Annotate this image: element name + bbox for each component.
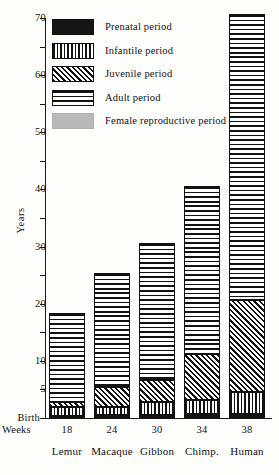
legend-label-prenatal: Prenatal period [105, 21, 172, 33]
legend-swatch-prenatal [52, 19, 94, 35]
y-axis-tick [40, 47, 45, 48]
y-axis-tick-label: 30 [35, 242, 46, 252]
birth-axis-label: Birth [2, 412, 40, 423]
legend-item-infantile: Infantile period [52, 42, 227, 62]
legend-swatch-female [52, 113, 94, 129]
y-axis-tick [40, 161, 45, 162]
bar-segment-infantile [184, 400, 220, 414]
legend-swatch-infantile [52, 43, 94, 59]
bar-segment-juvenile [94, 387, 130, 407]
legend-swatch-juvenile [52, 66, 94, 82]
y-axis-tick-label: 40 [35, 184, 46, 194]
y-axis-tick-label: 50 [35, 127, 46, 137]
bar-segment-adult [184, 186, 220, 355]
bar-segment-prenatal [184, 414, 220, 418]
bar-segment-adult [139, 243, 175, 380]
legend-item-juvenile: Juvenile period [52, 65, 227, 85]
y-axis-title: Years [15, 191, 26, 251]
y-axis-tick-label: 60 [35, 70, 46, 80]
bar-segment-infantile [139, 402, 175, 415]
bar-segment-prenatal [49, 416, 85, 418]
bar-segment-prenatal [229, 414, 265, 418]
gestation-weeks-label: 38 [215, 424, 279, 435]
bar-segment-adult [94, 273, 130, 387]
y-axis-tick [40, 332, 45, 333]
chart-legend: Prenatal periodInfantile periodJuvenile … [52, 18, 227, 136]
bar-segment-juvenile [229, 300, 265, 393]
bar-segment-infantile [94, 407, 130, 416]
y-axis-tick-label: 5 [40, 384, 46, 394]
legend-item-female: Female reproductive period [52, 112, 227, 132]
y-axis-tick-label: 10 [35, 356, 46, 366]
bar-segment-adult [229, 14, 265, 300]
legend-label-infantile: Infantile period [105, 45, 173, 57]
legend-item-prenatal: Prenatal period [52, 18, 227, 38]
bar-segment-prenatal [94, 415, 130, 418]
bar-segment-infantile [49, 407, 85, 416]
y-axis-tick-label: 70 [35, 13, 46, 23]
y-axis-tick [40, 218, 45, 219]
species-label: Human [215, 445, 279, 457]
bar-segment-infantile [229, 392, 265, 414]
legend-label-juvenile: Juvenile period [105, 68, 172, 80]
bar-segment-prenatal [139, 415, 175, 418]
legend-label-female: Female reproductive period [105, 115, 226, 127]
y-axis-tick [40, 104, 45, 105]
legend-label-adult: Adult period [105, 92, 161, 104]
legend-swatch-adult [52, 90, 94, 106]
lifespan-stacked-bar-chart: Years 510203040506070 Birth Weeks 18Lemu… [0, 0, 279, 475]
bar-segment-adult [49, 313, 85, 402]
y-axis-tick [40, 275, 45, 276]
bar-segment-juvenile [184, 354, 220, 400]
bar-segment-juvenile [49, 402, 85, 407]
bar-segment-juvenile [139, 380, 175, 402]
y-axis-tick [40, 418, 45, 419]
y-axis-tick-label: 20 [35, 299, 46, 309]
x-axis-baseline [45, 418, 272, 419]
legend-item-adult: Adult period [52, 89, 227, 109]
